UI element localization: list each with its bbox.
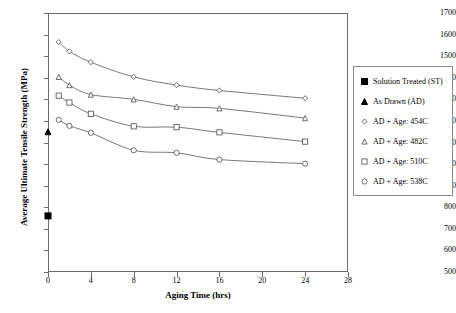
legend-item[interactable]: Solution Treated (ST) (360, 74, 452, 88)
legend-item[interactable]: AD + Age: 482C (360, 134, 452, 148)
plot-area (48, 13, 348, 272)
y-tick-mark (44, 78, 49, 79)
x-tick-mark (305, 272, 306, 277)
x-tick-mark (219, 272, 220, 277)
legend-marker-icon (360, 77, 369, 86)
x-tick-label: 16 (215, 277, 223, 285)
legend-label: As Drawn (AD) (373, 97, 425, 106)
y-tick-mark (44, 164, 49, 165)
y-tick-mark (44, 250, 49, 251)
y-tick-label: 1700 (414, 9, 456, 17)
x-tick-label: 0 (46, 277, 50, 285)
legend-item[interactable]: AD + Age: 538C (360, 174, 452, 188)
legend-marker-icon (360, 137, 369, 146)
x-tick-label: 24 (301, 277, 309, 285)
y-tick-mark (44, 143, 49, 144)
x-tick-label: 28 (344, 277, 352, 285)
x-tick-mark (134, 272, 135, 277)
legend-label: AD + Age: 510C (373, 157, 428, 166)
legend-label: Solution Treated (ST) (373, 77, 443, 86)
y-tick-label: 1500 (414, 52, 456, 60)
legend-marker-icon (360, 117, 369, 126)
legend-item[interactable]: AD + Age: 510C (360, 154, 452, 168)
legend-marker-icon (360, 157, 369, 166)
x-tick-label: 12 (173, 277, 181, 285)
x-tick-label: 20 (258, 277, 266, 285)
x-axis-title: Aging Time (hrs) (48, 290, 348, 300)
legend-marker-icon (360, 97, 369, 106)
legend-label: AD + Age: 482C (373, 137, 428, 146)
chart-root: 5006007008009001000110012001300140015001… (0, 0, 456, 313)
legend-item[interactable]: AD + Age: 454C (360, 114, 452, 128)
x-tick-mark (262, 272, 263, 277)
y-tick-label: 1600 (414, 31, 456, 39)
legend-item[interactable]: As Drawn (AD) (360, 94, 452, 108)
legend-label: AD + Age: 538C (373, 177, 428, 186)
x-tick-mark (348, 272, 349, 277)
y-tick-mark (44, 186, 49, 187)
y-tick-mark (44, 229, 49, 230)
y-tick-label: 800 (414, 203, 456, 211)
x-tick-mark (48, 272, 49, 277)
y-tick-mark (44, 99, 49, 100)
x-tick-label: 8 (132, 277, 136, 285)
y-axis-title: Average Ultimate Tensile Strength (MPa) (19, 47, 29, 247)
y-tick-mark (44, 121, 49, 122)
y-tick-mark (44, 13, 49, 14)
y-tick-label: 700 (414, 225, 456, 233)
y-tick-label: 600 (414, 246, 456, 254)
legend: Solution Treated (ST)As Drawn (AD)AD + A… (353, 66, 453, 196)
legend-label: AD + Age: 454C (373, 117, 428, 126)
y-tick-mark (44, 207, 49, 208)
x-tick-mark (91, 272, 92, 277)
y-tick-mark (44, 35, 49, 36)
y-tick-mark (44, 56, 49, 57)
y-tick-label: 500 (414, 268, 456, 276)
legend-marker-icon (360, 177, 369, 186)
x-tick-mark (177, 272, 178, 277)
x-tick-label: 4 (89, 277, 93, 285)
